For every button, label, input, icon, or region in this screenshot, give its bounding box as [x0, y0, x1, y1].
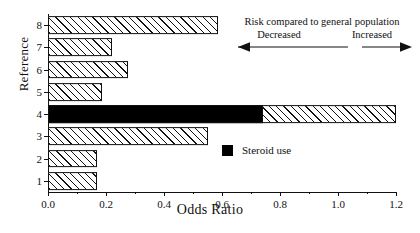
- x-axis-title: Odds Ratio: [0, 202, 420, 218]
- x-tick-mark: [222, 192, 223, 196]
- bar-reference-6: [48, 61, 128, 79]
- y-tick-label-3: 3: [37, 131, 43, 142]
- odds-ratio-bar-chart: Reference 12345678 0.00.20.40.60.81.01.2…: [0, 0, 420, 233]
- y-tick-label-1: 1: [37, 175, 43, 186]
- x-tick-minor: [309, 192, 310, 194]
- x-tick-mark: [106, 192, 107, 196]
- left-arrow-icon: [238, 42, 250, 52]
- x-tick-minor: [77, 192, 78, 194]
- bar-reference-7: [48, 38, 112, 56]
- risk-direction-arrows: [222, 40, 418, 54]
- y-tick-label-5: 5: [37, 86, 43, 97]
- bar-reference-2: [48, 150, 97, 168]
- x-tick-minor: [367, 192, 368, 194]
- x-tick-mark: [280, 192, 281, 196]
- x-tick-minor: [251, 192, 252, 194]
- x-tick-mark: [48, 192, 49, 196]
- bar-reference-8: [48, 16, 218, 34]
- bar-segment-steroid-use: [48, 105, 263, 123]
- annotation-decreased-label: Decreased: [232, 29, 326, 40]
- y-tick-label-2: 2: [37, 153, 43, 164]
- bar-reference-3: [48, 127, 208, 145]
- y-tick-label-8: 8: [37, 20, 43, 31]
- x-tick-mark: [164, 192, 165, 196]
- annotation-title: Risk compared to general population: [224, 16, 420, 27]
- annotation-increased-label: Increased: [330, 29, 414, 40]
- legend-label-steroid-use: Steroid use: [242, 144, 291, 156]
- x-tick-mark: [396, 192, 397, 196]
- legend-swatch-steroid-use: [222, 145, 233, 156]
- y-tick-label-6: 6: [37, 64, 43, 75]
- right-arrow-icon: [400, 42, 412, 52]
- legend: Steroid use: [222, 144, 291, 156]
- bar-reference-1: [48, 172, 97, 190]
- y-tick-label-4: 4: [37, 109, 43, 120]
- x-tick-minor: [135, 192, 136, 194]
- y-tick-label-7: 7: [37, 42, 43, 53]
- x-tick-minor: [193, 192, 194, 194]
- y-axis-title: Reference: [16, 4, 32, 124]
- bar-reference-5: [48, 83, 102, 101]
- x-tick-mark: [338, 192, 339, 196]
